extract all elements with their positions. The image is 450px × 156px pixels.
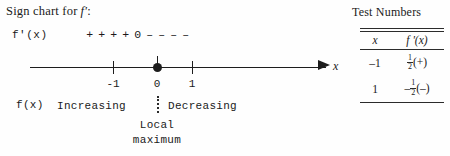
minus-sign: – [180, 28, 192, 41]
table-row: 1 –12(–) [360, 76, 444, 102]
axis-tick-label-pos1: 1 [179, 78, 205, 90]
fraction-denominator: 2 [407, 62, 413, 71]
minus-sign: – [156, 28, 168, 41]
cell-fprime-value: –12(–) [390, 76, 444, 102]
cell-sign-paren: (+) [413, 56, 427, 68]
sign-chart-figure: Sign chart forf′: f'(x) ++++0–––– x -1 0… [0, 0, 450, 156]
interval-divider [157, 96, 159, 113]
cell-sign-paren: (–) [416, 81, 429, 93]
axis-tick-label-neg1: -1 [100, 78, 126, 90]
local-maximum-annotation: Local maximum [107, 118, 207, 148]
axis-tick-pos1 [192, 61, 193, 74]
increasing-label: Increasing [57, 100, 126, 112]
local-maximum-line1: Local [107, 118, 207, 133]
cell-fprime-value: 12(+) [390, 50, 444, 76]
zero-sign: 0 [132, 28, 144, 41]
test-numbers-table: x f '(x) –1 12(+) 1 –12(–) [360, 28, 444, 103]
axis-arrow-icon [318, 60, 330, 70]
table-head: x f '(x) [360, 32, 444, 49]
fraction: 12 [407, 54, 413, 72]
minus-sign: – [144, 28, 156, 41]
test-numbers-body: –1 12(+) 1 –12(–) [360, 50, 444, 102]
column-header-fprime: f '(x) [390, 32, 444, 49]
table-header-row: x f '(x) [360, 32, 444, 49]
axis-tick-label-zero: 0 [144, 78, 170, 90]
fraction-denominator: 2 [410, 88, 416, 97]
derivative-sign-row: ++++0–––– [84, 28, 192, 41]
test-numbers-grid: x f '(x) [360, 32, 444, 49]
plus-sign: + [108, 28, 120, 41]
critical-point-dot [153, 63, 162, 72]
fraction-numerator: 1 [410, 79, 416, 87]
table-row: –1 12(+) [360, 50, 444, 76]
fraction-numerator: 1 [407, 54, 413, 62]
plus-sign: + [84, 28, 96, 41]
fraction: 12 [410, 79, 416, 97]
cell-x-value: 1 [360, 76, 390, 102]
page-title-colon: : [87, 4, 91, 18]
page-title-text: Sign chart for [6, 4, 78, 18]
cell-x-value: –1 [360, 50, 390, 76]
axis-tick-neg1 [113, 61, 114, 74]
local-maximum-line2: maximum [107, 133, 207, 148]
page-title: Sign chart forf′: [6, 4, 91, 19]
axis-variable-label: x [333, 59, 338, 74]
plus-sign: + [96, 28, 108, 41]
decreasing-label: Decreasing [168, 100, 237, 112]
test-numbers-title: Test Numbers [352, 5, 421, 20]
function-label: f(x) [16, 99, 44, 111]
minus-sign: – [168, 28, 180, 41]
number-line-axis [30, 67, 326, 68]
table-bottom-rule [360, 102, 444, 103]
plus-sign: + [120, 28, 132, 41]
column-header-x: x [360, 32, 390, 49]
derivative-label: f'(x) [12, 29, 48, 41]
page-title-function: f′ [78, 4, 88, 18]
